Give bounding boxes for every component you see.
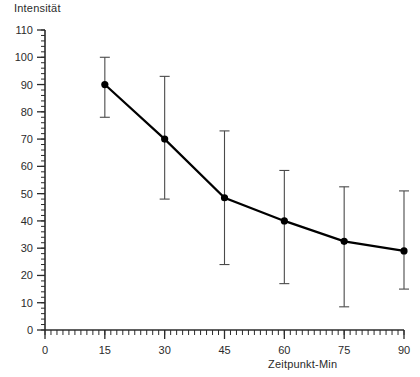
svg-text:45: 45 [218,344,230,356]
svg-text:15: 15 [99,344,111,356]
svg-text:0: 0 [27,324,33,336]
svg-text:30: 30 [21,242,33,254]
svg-text:80: 80 [21,106,33,118]
svg-text:60: 60 [278,344,290,356]
svg-text:75: 75 [338,344,350,356]
svg-text:90: 90 [398,344,410,356]
svg-text:100: 100 [15,51,33,63]
data-series [100,57,409,307]
y-axis: 0102030405060708090100110 [15,24,45,336]
svg-text:0: 0 [42,344,48,356]
svg-text:60: 60 [21,160,33,172]
svg-text:50: 50 [21,188,33,200]
svg-text:90: 90 [21,79,33,91]
x-axis: 0153045607590 [42,330,410,356]
svg-text:40: 40 [21,215,33,227]
svg-text:30: 30 [159,344,171,356]
svg-text:10: 10 [21,297,33,309]
plot-area: 0102030405060708090100110 0153045607590 [0,0,420,377]
chart-container: Intensität Zeitpunkt-Min 010203040506070… [0,0,420,377]
svg-text:20: 20 [21,269,33,281]
svg-text:70: 70 [21,133,33,145]
svg-text:110: 110 [15,24,33,36]
